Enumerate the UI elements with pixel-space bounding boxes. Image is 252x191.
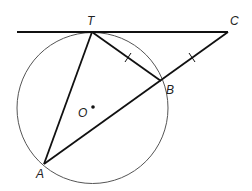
label-B: B (166, 83, 174, 97)
label-O: O (78, 106, 87, 120)
label-C: C (230, 14, 239, 28)
label-A: A (35, 167, 44, 181)
tick-TB (125, 53, 131, 62)
label-T: T (87, 14, 96, 28)
segment-TB (92, 32, 161, 81)
tick-BC (189, 53, 195, 62)
geometry-diagram: T C B A O (0, 0, 252, 191)
center-point-O (91, 105, 95, 109)
segment-TA (44, 32, 92, 164)
secant-AC (44, 32, 228, 164)
